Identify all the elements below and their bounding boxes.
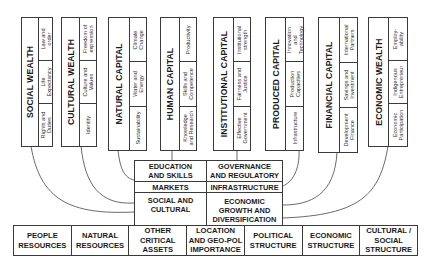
card-item: Infrastructure xyxy=(291,112,297,145)
card-item: Climate Change xyxy=(132,30,144,50)
card-item: Development Finance xyxy=(342,114,354,147)
card-item: Identity xyxy=(85,116,91,134)
card-item: Innovation and Technology xyxy=(285,26,304,54)
card-item: Rights and Duties xyxy=(39,112,51,139)
foundation-natural-resources: NATURAL RESOURCES xyxy=(71,226,129,255)
cell-markets: MARKETS xyxy=(135,181,207,192)
foundation-location-geopol: LOCATION AND GEO-POL IMPORTANCE xyxy=(186,226,244,255)
card-human-capital: HUMAN CAPITAL Knowledge and Research Ski… xyxy=(160,17,197,151)
card-item: Indigenous Entrepreneur xyxy=(392,66,404,99)
foundation-political-structure: POLITICAL STRUCTURE xyxy=(244,226,302,255)
card-economic-wealth: ECONOMIC WEALTH Economic Participation I… xyxy=(368,17,408,147)
card-item: Savings and Investment xyxy=(342,70,354,101)
card-item: Productivity xyxy=(185,25,191,54)
cell-governance-regulatory: GOVERNANCE AND REGULATORY xyxy=(207,161,282,181)
cell-education-skills: EDUCATION AND SKILLS xyxy=(135,161,207,181)
card-title: NATURAL CAPITAL xyxy=(114,43,124,124)
card-item: Institutional strength xyxy=(236,26,248,54)
foundation-economic-structure: ECONOMIC STRUCTURE xyxy=(302,226,360,255)
framework-diagram: SOCIAL WEALTH Rights and Duties Life Exp… xyxy=(0,0,431,269)
foundation-people-resources: PEOPLE RESOURCES xyxy=(14,226,71,255)
foundation-row: PEOPLE RESOURCES NATURAL RESOURCES OTHER… xyxy=(13,225,418,256)
card-item: Employ- ability xyxy=(392,29,404,50)
card-title: PRODUCED CAPITAL xyxy=(271,39,281,129)
card-item: Skills and Competence xyxy=(182,68,194,100)
card-institutional-capital: INSTITUTIONAL CAPITAL Effective Governme… xyxy=(213,17,251,151)
card-item: Freedom of expression xyxy=(82,25,94,54)
card-item: Economic Participation xyxy=(392,110,404,141)
foundation-other-critical-assets: OTHER CRITICAL ASSETS xyxy=(128,226,186,255)
center-grid: EDUCATION AND SKILLS GOVERNANCE AND REGU… xyxy=(134,160,283,229)
card-item: Sustainability xyxy=(135,112,141,145)
card-item: Knowledge and Research xyxy=(182,111,194,146)
card-title: HUMAN CAPITAL xyxy=(165,48,175,120)
card-title: INSTITUTIONAL CAPITAL xyxy=(219,31,229,137)
card-cultural-wealth: CULTURAL WEALTH Identity Culture and Val… xyxy=(61,17,97,147)
card-item: Culture and Values xyxy=(82,68,94,97)
card-item: Life Expectancy xyxy=(39,68,51,97)
card-item: Effective Government xyxy=(236,113,248,144)
card-item: Fairness and Justice xyxy=(236,68,248,100)
card-item: Production Capacities xyxy=(288,71,300,98)
cell-infrastructure: INFRASTRUCTURE xyxy=(207,181,282,192)
card-title: ECONOMIC WEALTH xyxy=(374,38,384,125)
card-title: CULTURAL WEALTH xyxy=(66,39,76,125)
cell-social-cultural: SOCIAL AND CULTURAL xyxy=(135,192,207,228)
cell-economic-growth: ECONOMIC GROWTH AND DIVERSIFICATION xyxy=(207,192,282,228)
card-social-wealth: SOCIAL WEALTH Rights and Duties Life Exp… xyxy=(21,17,53,147)
foundation-cultural-social-structure: CULTURAL / SOCIAL STRUCTURE xyxy=(359,226,417,255)
card-title: SOCIAL WEALTH xyxy=(25,46,35,118)
card-financial-capital: FINANCIAL CAPITAL Development Finance Sa… xyxy=(318,17,358,153)
card-item: Law and order xyxy=(39,28,51,49)
card-title: FINANCIAL CAPITAL xyxy=(324,42,334,129)
card-item: International Partners xyxy=(342,25,354,56)
card-item: Water and Energy xyxy=(132,71,144,97)
card-produced-capital: PRODUCED CAPITAL Infrastructure Producti… xyxy=(265,17,304,151)
card-natural-capital: NATURAL CAPITAL Sustainability Water and… xyxy=(108,17,147,151)
